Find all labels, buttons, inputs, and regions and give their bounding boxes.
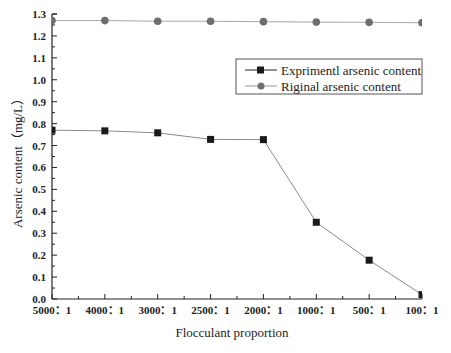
y-axis: 0.00.10.20.30.40.50.60.70.80.91.01.11.21… [32, 8, 57, 305]
circle-marker-icon [101, 17, 109, 25]
x-tick-label: 3000：1 [138, 304, 177, 316]
legend-label-experimental: Exprimentl arsenic content [281, 63, 421, 78]
x-tick-label: 100：1 [406, 304, 439, 316]
series-line [52, 130, 422, 294]
circle-marker-icon [154, 17, 162, 25]
y-tick-label: 1.0 [32, 74, 46, 86]
circle-marker-icon [312, 18, 320, 26]
circle-marker-icon [260, 18, 268, 26]
x-tick-label: 2500：1 [191, 304, 230, 316]
y-tick-label: 0.9 [32, 96, 46, 108]
circle-marker-icon [48, 17, 56, 25]
square-marker-icon [366, 257, 373, 264]
x-axis: 5000：14000：13000：12500：12000：11000：1500：… [33, 294, 439, 316]
square-marker-icon [313, 219, 320, 226]
y-tick-label: 0.5 [32, 183, 46, 195]
y-tick-label: 0.6 [32, 161, 46, 173]
square-marker-icon [49, 127, 56, 134]
legend-circle-marker-icon [258, 83, 265, 90]
square-marker-icon [154, 129, 161, 136]
y-tick-label: 0.4 [32, 205, 46, 217]
line-chart: 0.00.10.20.30.40.50.60.70.80.91.01.11.21… [0, 0, 451, 353]
y-tick-label: 0.8 [32, 118, 46, 130]
square-marker-icon [207, 136, 214, 143]
circle-marker-icon [418, 19, 426, 27]
square-marker-icon [419, 291, 426, 298]
y-tick-label: 1.2 [32, 30, 46, 42]
y-axis-title: Arsenic content（mg/L） [10, 92, 25, 228]
y-tick-label: 0.2 [32, 249, 46, 261]
legend-square-marker-icon [257, 67, 264, 74]
y-tick-label: 1.3 [32, 8, 46, 20]
circle-marker-icon [207, 17, 215, 25]
legend: Exprimentl arsenic content Riginal arsen… [236, 59, 422, 94]
x-tick-label: 500：1 [353, 304, 386, 316]
x-tick-label: 1000：1 [297, 304, 336, 316]
x-axis-title: Flocculant proportion [175, 325, 289, 340]
y-tick-label: 1.1 [32, 52, 46, 64]
square-marker-icon [260, 136, 267, 143]
legend-label-original: Riginal arsenic content [281, 79, 401, 94]
y-tick-label: 0.7 [32, 140, 46, 152]
y-tick-label: 0.3 [32, 227, 46, 239]
x-tick-label: 4000：1 [86, 304, 125, 316]
x-tick-label: 5000：1 [33, 304, 72, 316]
x-tick-label: 2000：1 [244, 304, 283, 316]
square-marker-icon [101, 127, 108, 134]
circle-marker-icon [365, 19, 373, 27]
y-tick-label: 0.1 [32, 271, 46, 283]
